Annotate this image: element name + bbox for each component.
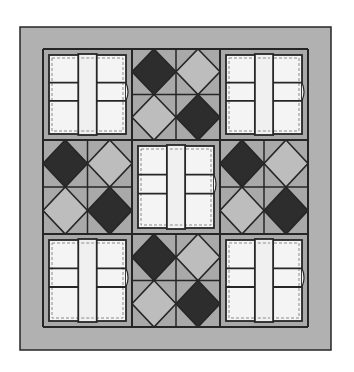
diamond-block [132,49,220,140]
diamond-block [220,140,308,234]
cross-block [220,234,308,327]
diamond-block [43,140,132,234]
quilt-diagram [0,0,354,372]
center-strip [255,54,273,135]
cross-block [220,49,308,140]
center-strip [167,145,185,229]
diamond-block [132,234,220,327]
quilt-blocks [43,49,308,327]
cross-block [43,234,132,327]
center-strip [78,239,96,322]
cross-block [43,49,132,140]
center-strip [78,54,96,135]
center-strip [255,239,273,322]
cross-block [132,140,220,234]
